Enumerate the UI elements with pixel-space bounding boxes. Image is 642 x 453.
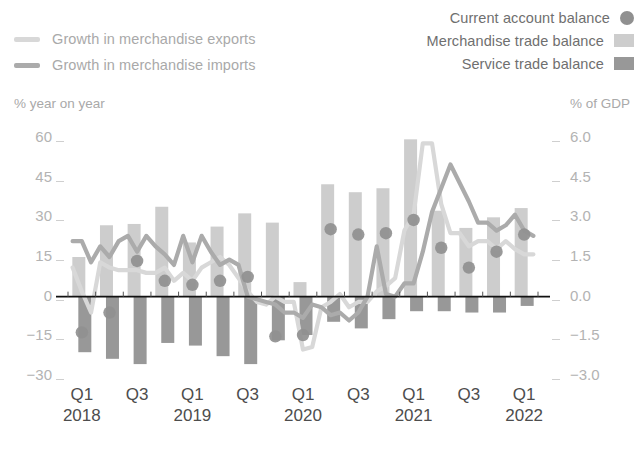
x-axis-tick-label: Q12021 xyxy=(384,384,444,426)
left-axis-tick-label: 15 xyxy=(10,247,52,264)
x-tick-quarter: Q1 xyxy=(384,384,444,405)
x-tick-quarter: Q3 xyxy=(107,384,167,405)
x-tick-year: 2022 xyxy=(494,405,554,426)
bar-merchandise-trade-balance xyxy=(266,223,279,297)
marker-current-account-balance xyxy=(214,275,226,287)
right-axis-tick-dash xyxy=(552,260,560,261)
x-tick-quarter: Q3 xyxy=(439,384,499,405)
bar-service-trade-balance xyxy=(189,297,202,346)
x-axis-tick-label: Q12020 xyxy=(273,384,333,426)
right-axis-tick-dash xyxy=(552,181,560,182)
bar-service-trade-balance xyxy=(106,297,119,359)
left-axis-tick-dash xyxy=(56,300,64,301)
left-axis-tick-dash xyxy=(56,260,64,261)
bar-service-trade-balance xyxy=(134,297,147,364)
bar-service-trade-balance xyxy=(217,297,230,357)
marker-current-account-balance xyxy=(490,246,502,258)
right-axis-tick-dash xyxy=(552,339,560,340)
marker-current-account-balance xyxy=(435,242,447,254)
bar-service-trade-balance xyxy=(382,297,395,319)
marker-current-account-balance xyxy=(242,271,254,283)
marker-current-account-balance xyxy=(159,275,171,287)
x-tick-quarter: Q1 xyxy=(52,384,112,405)
left-axis-tick-label: 60 xyxy=(10,128,52,145)
right-axis-tick-dash xyxy=(552,141,560,142)
right-axis-tick-dash xyxy=(552,379,560,380)
bar-service-trade-balance xyxy=(465,297,478,313)
right-axis-tick-label: 0.0 xyxy=(570,287,618,304)
x-axis-tick-label: Q3 xyxy=(439,384,499,405)
right-axis-tick-label: 6.0 xyxy=(570,128,618,145)
right-axis-tick-label: 1.5 xyxy=(570,247,618,264)
left-axis-tick-dash xyxy=(56,379,64,380)
x-tick-year: 2019 xyxy=(162,405,222,426)
bar-merchandise-trade-balance xyxy=(321,184,334,296)
right-axis-tick-dash xyxy=(552,220,560,221)
x-axis-tick-label: Q3 xyxy=(218,384,278,405)
marker-current-account-balance xyxy=(463,261,475,273)
x-tick-quarter: Q1 xyxy=(162,384,222,405)
right-axis-tick-label: 3.0 xyxy=(570,207,618,224)
left-axis-tick-dash xyxy=(56,339,64,340)
marker-current-account-balance xyxy=(76,326,88,338)
x-tick-quarter: Q1 xyxy=(494,384,554,405)
marker-current-account-balance xyxy=(186,279,198,291)
x-axis-tick-label: Q3 xyxy=(107,384,167,405)
left-axis-tick-dash xyxy=(56,181,64,182)
x-tick-year: 2021 xyxy=(384,405,444,426)
marker-current-account-balance xyxy=(407,214,419,226)
marker-current-account-balance xyxy=(380,227,392,239)
bar-service-trade-balance xyxy=(410,297,423,312)
bar-merchandise-trade-balance xyxy=(294,282,307,297)
left-axis-tick-label: −15 xyxy=(10,326,52,343)
x-axis-tick-label: Q3 xyxy=(328,384,388,405)
x-tick-quarter: Q3 xyxy=(218,384,278,405)
bar-service-trade-balance xyxy=(438,297,451,312)
marker-current-account-balance xyxy=(269,330,281,342)
x-tick-quarter: Q3 xyxy=(328,384,388,405)
left-axis-tick-dash xyxy=(56,220,64,221)
marker-current-account-balance xyxy=(324,223,336,235)
bar-merchandise-trade-balance xyxy=(349,192,362,296)
x-axis-tick-label: Q12022 xyxy=(494,384,554,426)
marker-current-account-balance xyxy=(297,329,309,341)
bar-service-trade-balance xyxy=(244,297,257,364)
left-axis-tick-label: 45 xyxy=(10,168,52,185)
bar-service-trade-balance xyxy=(161,297,174,343)
marker-current-account-balance xyxy=(352,228,364,240)
bar-service-trade-balance xyxy=(521,297,534,306)
right-axis-tick-dash xyxy=(552,300,560,301)
chart-page: Growth in merchandise exports Growth in … xyxy=(0,0,642,453)
left-axis-tick-label: 0 xyxy=(10,287,52,304)
right-axis-tick-label: 4.5 xyxy=(570,168,618,185)
marker-current-account-balance xyxy=(103,306,115,318)
left-axis-tick-dash xyxy=(56,141,64,142)
x-tick-quarter: Q1 xyxy=(273,384,333,405)
x-axis-tick-label: Q12018 xyxy=(52,384,112,426)
marker-current-account-balance xyxy=(131,255,143,267)
x-tick-year: 2018 xyxy=(52,405,112,426)
x-tick-year: 2020 xyxy=(273,405,333,426)
right-axis-tick-label: −3.0 xyxy=(570,366,618,383)
x-axis-tick-label: Q12019 xyxy=(162,384,222,426)
right-axis-tick-label: −1.5 xyxy=(570,326,618,343)
left-axis-tick-label: −30 xyxy=(10,366,52,383)
marker-current-account-balance xyxy=(518,228,530,240)
left-axis-tick-label: 30 xyxy=(10,207,52,224)
bar-service-trade-balance xyxy=(493,297,506,313)
